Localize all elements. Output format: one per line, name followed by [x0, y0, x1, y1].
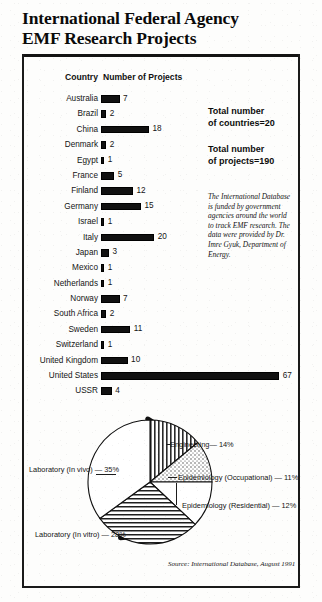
- bar-row-fill: [101, 157, 104, 165]
- total-projects-line1: Total number: [208, 144, 274, 156]
- leader-line-invivo: [96, 474, 116, 475]
- bar-row-label: Sweden: [68, 325, 98, 335]
- bar-row-track: [101, 357, 128, 365]
- bar-row-value: 1: [108, 278, 113, 288]
- bar-row-track: [101, 295, 120, 303]
- bar-row-fill: [101, 249, 109, 257]
- bar-row-fill: [101, 326, 130, 334]
- total-projects-line2: of projects=190: [208, 156, 274, 168]
- bar-row-value: 1: [108, 340, 113, 350]
- bar-row-track: [101, 110, 106, 118]
- bar-row-label: Brazil: [78, 109, 98, 119]
- total-projects: Total number of projects=190: [208, 144, 274, 167]
- bar-chart-row: South Africa2: [0, 307, 322, 322]
- bar-row-fill: [101, 234, 154, 242]
- bar-row-label: Germany: [64, 202, 98, 212]
- pie-label-epidemiology-occupational: Epidemiology (Occupational) — 11%: [178, 473, 298, 482]
- bar-chart-row: USSR4: [0, 384, 322, 399]
- bar-chart-row: Sweden11: [0, 323, 322, 338]
- total-countries: Total number of countries=20: [208, 106, 275, 129]
- bar-row-label: Italy: [83, 233, 98, 243]
- leader-line-engineering: [166, 444, 170, 445]
- bar-row-value: 10: [131, 355, 140, 365]
- bar-row-track: [101, 203, 141, 211]
- bar-row-fill: [101, 295, 120, 303]
- bar-row-label: China: [77, 125, 98, 135]
- bar-row-track: [101, 341, 104, 349]
- bar-row-fill: [101, 126, 149, 134]
- bar-row-value: 1: [108, 155, 113, 165]
- title-line-2: EMF Research Projects: [22, 28, 290, 48]
- bar-row-track: [101, 172, 114, 180]
- pie-label-engineering: Engineering— 14%: [170, 440, 234, 449]
- column-header-projects: Number of Projects: [103, 72, 182, 82]
- bar-row-track: [101, 310, 106, 318]
- bar-row-value: 2: [110, 109, 115, 119]
- bar-row-fill: [101, 372, 279, 380]
- bar-row-label: Denmark: [65, 140, 98, 150]
- bar-row-value: 67: [283, 371, 292, 381]
- bar-row-label: Norway: [70, 294, 98, 304]
- bar-row-track: [101, 264, 104, 272]
- bar-row-track: [101, 249, 109, 257]
- bar-row-fill: [101, 95, 120, 103]
- bar-row-value: 4: [115, 386, 120, 396]
- bar-row-value: 3: [112, 247, 117, 257]
- bar-row-track: [101, 387, 112, 395]
- title-rule: [22, 54, 300, 57]
- bar-row-fill: [101, 141, 106, 149]
- bar-row-fill: [101, 387, 112, 395]
- bar-row-value: 12: [136, 186, 145, 196]
- bar-row-label: Australia: [66, 94, 98, 104]
- bar-row-label: USSR: [75, 386, 98, 396]
- bar-row-label: United Kingdom: [40, 356, 98, 366]
- leader-line-occupational: [168, 477, 177, 478]
- bar-row-track: [101, 141, 106, 149]
- bar-row-value: 1: [108, 263, 113, 273]
- bar-row-label: Switzerland: [56, 340, 98, 350]
- bar-row-value: 15: [144, 201, 153, 211]
- bar-row-value: 7: [123, 94, 128, 104]
- bar-row-label: South Africa: [54, 309, 98, 319]
- bar-chart-row: France5: [0, 169, 322, 184]
- bar-row-label: Egypt: [77, 156, 98, 166]
- bar-row-track: [101, 326, 130, 334]
- bar-row-label: Finland: [71, 186, 98, 196]
- bar-row-track: [101, 280, 104, 288]
- bar-row-label: Japan: [76, 248, 98, 258]
- bar-row-fill: [101, 264, 104, 272]
- bar-row-fill: [101, 357, 128, 365]
- description-note: The International Database is funded by …: [208, 192, 292, 259]
- source-note: Source: International Database, August 1…: [168, 560, 295, 568]
- bar-row-fill: [101, 218, 104, 226]
- total-countries-line1: Total number: [208, 106, 275, 118]
- pie-label-laboratory-in-vitro: Laboratory (In vitro) — 28%: [35, 530, 126, 539]
- bar-chart-row: United Kingdom10: [0, 354, 322, 369]
- bar-chart-row: Mexico1: [0, 261, 322, 276]
- bar-row-value: 2: [110, 140, 115, 150]
- bar-row-fill: [101, 203, 141, 211]
- bar-row-label: France: [73, 171, 98, 181]
- bar-row-track: [101, 372, 279, 380]
- leader-line-invitro: [118, 534, 136, 535]
- leader-line-residential: [176, 483, 177, 505]
- bar-row-value: 5: [118, 170, 123, 180]
- bar-row-track: [101, 218, 104, 226]
- bar-row-label: United States: [49, 371, 98, 381]
- bar-row-track: [101, 157, 104, 165]
- bar-chart-row: Netherlands1: [0, 277, 322, 292]
- bar-row-track: [101, 187, 133, 195]
- bar-row-fill: [101, 187, 133, 195]
- bar-row-value: 7: [123, 294, 128, 304]
- bar-chart-row: Norway7: [0, 292, 322, 307]
- bar-row-value: 20: [158, 232, 167, 242]
- document-page: International Federal Agency EMF Researc…: [0, 0, 322, 602]
- total-countries-line2: of countries=20: [208, 118, 275, 130]
- title-line-1: International Federal Agency: [22, 8, 290, 28]
- pie-label-laboratory-in-vivo: Laboratory (In vivo) — 35%: [29, 465, 119, 474]
- bar-row-track: [101, 234, 154, 242]
- pie-label-epidemiology-residential: Epidemiology (Residential) — 12%: [182, 501, 296, 510]
- frame-bottom-border: [22, 586, 300, 588]
- bar-chart-row: Switzerland1: [0, 338, 322, 353]
- bar-row-label: Israel: [78, 217, 98, 227]
